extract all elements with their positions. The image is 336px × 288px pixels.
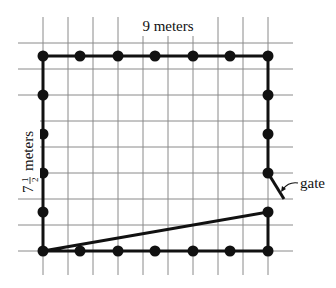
fence-post — [188, 246, 199, 257]
fence-post — [113, 51, 124, 62]
fence-post — [263, 90, 274, 101]
fence-posts — [38, 51, 274, 257]
fence-post — [225, 246, 236, 257]
fence-post — [225, 51, 236, 62]
fence-post — [113, 246, 124, 257]
fence-post — [150, 51, 161, 62]
fence-post — [38, 90, 49, 101]
fence-post — [150, 246, 161, 257]
fence-post — [263, 168, 274, 179]
fence-post — [75, 51, 86, 62]
fence-post — [38, 246, 49, 257]
fence-line — [43, 56, 268, 251]
fence-post — [263, 207, 274, 218]
fence-post — [263, 51, 274, 62]
fence-post — [75, 246, 86, 257]
height-label-unit: meters — [20, 131, 36, 171]
height-label-numerator: 1 — [20, 178, 30, 183]
gate-label: gate — [300, 175, 325, 191]
fence-diagram: 9 meters 7 1 2 meters gate — [0, 0, 336, 288]
fence-post — [38, 207, 49, 218]
fence-post — [263, 246, 274, 257]
gate-arrow — [283, 183, 298, 189]
fence-post — [263, 129, 274, 140]
height-label-whole: 7 — [20, 185, 36, 193]
fence-outline — [43, 56, 268, 251]
height-label-denominator: 2 — [30, 178, 40, 183]
fence-post — [38, 51, 49, 62]
width-label: 9 meters — [142, 18, 193, 34]
fence-post — [188, 51, 199, 62]
